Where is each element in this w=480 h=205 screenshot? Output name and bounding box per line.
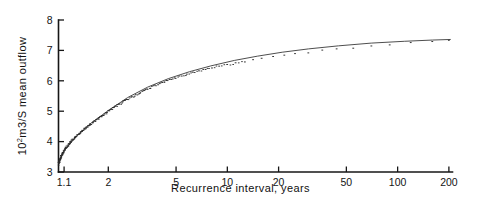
data-point	[431, 41, 433, 42]
data-point	[151, 86, 153, 87]
data-point	[230, 65, 232, 66]
data-point	[448, 40, 450, 41]
data-point	[137, 94, 139, 95]
data-point	[135, 94, 137, 95]
data-point	[202, 69, 204, 70]
data-point	[67, 146, 69, 147]
data-point	[116, 106, 118, 107]
data-point	[183, 75, 185, 76]
data-point	[252, 59, 254, 60]
data-point	[196, 71, 198, 72]
data-point	[121, 102, 123, 103]
data-point	[120, 104, 122, 105]
data-point	[113, 107, 115, 108]
data-point	[221, 65, 223, 66]
data-point	[235, 62, 237, 63]
y-axis-title: 102m3/S mean outflow	[15, 37, 28, 156]
data-point	[144, 90, 146, 91]
data-point	[85, 128, 87, 129]
data-point	[122, 101, 124, 102]
data-point	[61, 154, 63, 155]
data-point	[211, 68, 213, 69]
data-point	[114, 106, 116, 107]
data-point	[174, 77, 176, 78]
data-point	[321, 50, 323, 51]
data-point	[109, 110, 111, 111]
data-point	[232, 64, 234, 65]
data-point	[119, 103, 121, 104]
data-point	[70, 141, 72, 142]
y-tick-label: 4	[47, 135, 53, 147]
data-point	[169, 79, 171, 80]
data-point	[336, 48, 338, 49]
data-point	[224, 64, 226, 65]
data-point	[172, 79, 174, 80]
data-point	[63, 153, 65, 154]
x-tick-label: 2	[105, 176, 111, 188]
data-point	[207, 68, 209, 69]
data-point	[241, 61, 243, 62]
data-point	[123, 100, 125, 101]
data-point	[99, 117, 101, 118]
data-point	[272, 56, 274, 57]
data-point	[139, 93, 141, 94]
data-point	[73, 139, 75, 140]
data-point	[103, 115, 105, 116]
data-point	[201, 71, 203, 72]
data-point	[157, 84, 159, 85]
data-point	[63, 152, 65, 153]
data-point	[133, 97, 135, 98]
data-point	[198, 70, 200, 71]
data-point	[216, 66, 218, 67]
data-point	[76, 136, 78, 137]
data-point	[60, 159, 62, 160]
data-point	[352, 48, 354, 49]
y-tick-label: 7	[47, 44, 53, 56]
x-tick-label: 50	[341, 176, 353, 188]
data-point	[116, 104, 118, 105]
data-point	[185, 75, 187, 76]
data-point	[147, 89, 149, 90]
data-point	[65, 148, 67, 149]
data-point	[126, 99, 128, 100]
data-point	[80, 133, 82, 134]
y-tick-label: 5	[47, 105, 53, 117]
data-point	[179, 76, 181, 77]
data-point	[98, 119, 100, 120]
data-point	[294, 53, 296, 54]
fitted-curve	[59, 39, 451, 163]
data-point	[64, 149, 66, 150]
data-point	[87, 127, 89, 128]
data-point	[208, 68, 210, 69]
data-point	[188, 74, 190, 75]
data-point	[67, 145, 69, 146]
frequency-curve-chart: 3456781.125102050100200Recurrence interv…	[0, 0, 480, 205]
y-tick-label: 6	[47, 75, 53, 87]
data-point	[59, 161, 61, 162]
data-point	[261, 58, 263, 59]
data-point	[160, 83, 162, 84]
labels-group: 3456781.125102050100200Recurrence interv…	[15, 14, 458, 194]
data-point	[60, 157, 62, 158]
data-point	[140, 92, 142, 93]
data-point	[283, 55, 285, 56]
data-point	[244, 61, 246, 62]
y-tick-label: 3	[47, 166, 53, 178]
data-point	[66, 147, 68, 148]
data-point	[128, 99, 130, 100]
data-point	[124, 100, 126, 101]
data-point	[214, 67, 216, 68]
data-point	[96, 119, 98, 120]
data-group	[58, 39, 451, 165]
data-point	[101, 116, 103, 117]
data-point	[104, 114, 106, 115]
data-point	[192, 72, 194, 73]
data-point	[205, 69, 207, 70]
data-point	[150, 88, 152, 89]
data-point	[194, 72, 196, 73]
data-point	[69, 143, 71, 144]
data-point	[161, 82, 163, 83]
data-point	[106, 113, 108, 114]
data-point	[106, 112, 108, 113]
data-point	[93, 121, 95, 122]
